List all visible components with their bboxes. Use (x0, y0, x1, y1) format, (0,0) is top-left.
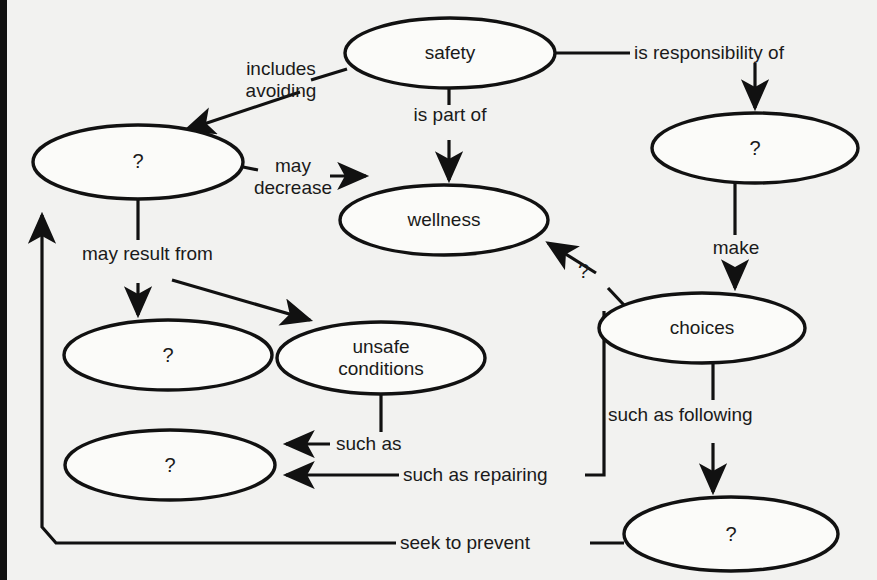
edge-label-is-part-of: is part of (385, 104, 515, 126)
node-safety[interactable] (345, 18, 555, 88)
edge-label-such-as-following: such as following (608, 404, 808, 426)
node-unknown-low-left[interactable] (65, 430, 275, 500)
node-unknown-right-top[interactable] (652, 113, 858, 183)
edge-label-includes-avoiding: includes avoiding (215, 58, 347, 102)
node-choices[interactable] (599, 293, 805, 363)
edges-layer (0, 0, 877, 580)
edge-label-is-responsibility-of: is responsibility of (634, 42, 864, 64)
edge-label-make: make (700, 237, 772, 259)
edge-line-choices-wellness-stub (608, 288, 624, 305)
edge-label-such-as-repairing: such as repairing (403, 464, 593, 486)
edge-label-seek-to-prevent: seek to prevent (400, 532, 590, 554)
node-unknown-left-top[interactable] (33, 125, 243, 199)
node-unknown-bottom[interactable] (624, 497, 838, 571)
edge-label-may-result-from: may result from (82, 243, 272, 265)
edge-arrow-may-result-from-diagonal (172, 280, 310, 320)
edge-label-such-as: such as (336, 433, 446, 455)
node-wellness[interactable] (340, 185, 548, 255)
node-unsafe-conditions[interactable] (277, 322, 485, 394)
edge-label-choices-wellness: ? (578, 260, 602, 282)
node-unknown-mid-left[interactable] (64, 320, 272, 390)
edge-label-may-decrease: may decrease (253, 155, 333, 199)
concept-map-canvas: safety ? wellness ? ? unsafe conditions … (0, 0, 877, 580)
